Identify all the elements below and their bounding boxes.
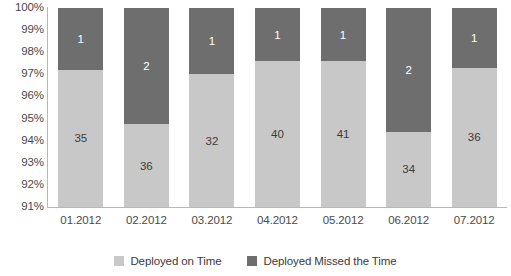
y-axis-tick-label: 97% <box>0 68 44 79</box>
bar-value-label: 32 <box>206 135 219 147</box>
bar-segment-missed-time[interactable]: 1 <box>58 8 103 70</box>
legend-swatch-icon <box>114 256 124 266</box>
bar-segment-on-time[interactable]: 36 <box>124 124 169 207</box>
bar-value-label: 34 <box>402 163 415 175</box>
bar-segment-missed-time[interactable]: 2 <box>124 8 169 124</box>
bar-group[interactable]: 351 <box>58 8 103 207</box>
y-axis-tick-label: 100% <box>0 2 44 13</box>
bar-group[interactable]: 321 <box>189 8 234 207</box>
bar-group[interactable]: 361 <box>452 8 497 207</box>
x-axis-tick-label: 07.2012 <box>441 214 507 226</box>
y-axis-tick-label: 93% <box>0 157 44 168</box>
bar-segment-on-time[interactable]: 41 <box>321 61 366 207</box>
bar-value-label: 35 <box>74 132 87 144</box>
bar-group[interactable]: 342 <box>386 8 431 207</box>
bar-segment-missed-time[interactable]: 1 <box>321 8 366 61</box>
x-axis-tick-label: 06.2012 <box>376 214 442 226</box>
bar-value-label: 41 <box>337 128 350 140</box>
bar-value-label: 2 <box>143 60 149 72</box>
bar-segment-on-time[interactable]: 35 <box>58 70 103 207</box>
bar-group[interactable]: 411 <box>321 8 366 207</box>
y-axis-tick-label: 91% <box>0 201 44 212</box>
bar-segment-on-time[interactable]: 36 <box>452 68 497 207</box>
bar-value-label: 1 <box>274 29 280 41</box>
y-axis-tick-label: 96% <box>0 90 44 101</box>
x-axis-tick-label: 03.2012 <box>179 214 245 226</box>
bar-segment-on-time[interactable]: 40 <box>255 61 300 207</box>
legend-item[interactable]: Deployed on Time <box>114 255 221 267</box>
legend-swatch-icon <box>247 256 257 266</box>
y-axis: 100%99%98%97%96%95%94%93%92%91% <box>0 0 44 215</box>
chart-legend: Deployed on TimeDeployed Missed the Time <box>0 252 511 270</box>
bar-value-label: 1 <box>471 32 477 44</box>
bar-segment-missed-time[interactable]: 1 <box>255 8 300 61</box>
bar-value-label: 1 <box>340 29 346 41</box>
bar-value-label: 40 <box>271 128 284 140</box>
x-axis: 01.201202.201203.201204.201205.201206.20… <box>48 214 507 236</box>
x-axis-tick-label: 02.2012 <box>114 214 180 226</box>
y-axis-tick-label: 99% <box>0 24 44 35</box>
y-axis-tick-label: 94% <box>0 135 44 146</box>
bar-segment-missed-time[interactable]: 1 <box>189 8 234 74</box>
stacked-bar-chart: 100%99%98%97%96%95%94%93%92%91% 35136232… <box>0 0 511 276</box>
legend-label: Deployed on Time <box>130 255 221 267</box>
bar-segment-missed-time[interactable]: 2 <box>386 8 431 132</box>
bar-segment-on-time[interactable]: 32 <box>189 74 234 207</box>
x-axis-tick-label: 04.2012 <box>245 214 311 226</box>
plot-area: 351362321401411342361 <box>48 8 507 207</box>
bar-segment-on-time[interactable]: 34 <box>386 132 431 207</box>
bar-group[interactable]: 362 <box>124 8 169 207</box>
legend-label: Deployed Missed the Time <box>263 255 396 267</box>
x-axis-tick-label: 05.2012 <box>310 214 376 226</box>
bar-segment-missed-time[interactable]: 1 <box>452 8 497 68</box>
bar-value-label: 2 <box>405 64 411 76</box>
bar-value-label: 1 <box>209 35 215 47</box>
bar-value-label: 36 <box>140 160 153 172</box>
legend-item[interactable]: Deployed Missed the Time <box>247 255 396 267</box>
x-axis-line <box>47 207 507 208</box>
y-axis-tick-label: 92% <box>0 179 44 190</box>
bar-value-label: 1 <box>78 33 84 45</box>
bar-group[interactable]: 401 <box>255 8 300 207</box>
bar-value-label: 36 <box>468 131 481 143</box>
y-axis-tick-label: 98% <box>0 46 44 57</box>
x-axis-tick-label: 01.2012 <box>48 214 114 226</box>
y-axis-tick-label: 95% <box>0 113 44 124</box>
